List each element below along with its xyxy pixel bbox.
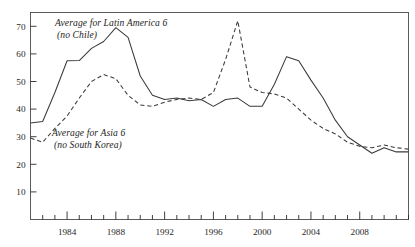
annotation-asia-line1: Average for Asia 6 — [52, 127, 125, 139]
x-tick-label: 2008 — [351, 227, 370, 237]
x-axis-tick-labels: 1984198819921996200020042008 — [58, 227, 369, 237]
x-tick-label: 1992 — [155, 227, 174, 237]
plot-frame — [31, 13, 409, 220]
y-tick-label: 20 — [16, 160, 26, 170]
y-tick-label: 70 — [16, 22, 26, 32]
annotation-asia-line2: (no South Korea) — [52, 139, 125, 151]
annotation-latin-america-line1: Average for Latin America 6 — [55, 17, 167, 29]
annotation-asia: Average for Asia 6 (no South Korea) — [52, 127, 125, 151]
x-tick-label: 1996 — [204, 227, 223, 237]
annotation-latin-america-line2: (no Chile) — [55, 29, 167, 41]
annotation-latin-america: Average for Latin America 6 (no Chile) — [55, 17, 167, 41]
y-tick-label: 40 — [16, 104, 26, 114]
y-tick-label: 60 — [16, 49, 26, 59]
x-axis-ticks — [43, 212, 409, 220]
y-axis-tick-labels: 10203040506070 — [16, 22, 26, 198]
x-tick-label: 1988 — [107, 227, 126, 237]
x-tick-label: 2004 — [302, 227, 321, 237]
y-tick-label: 10 — [16, 187, 26, 197]
y-tick-label: 30 — [16, 132, 26, 142]
x-tick-label: 2000 — [253, 227, 272, 237]
chart-figure: 10203040506070 1984198819921996200020042… — [0, 0, 415, 247]
y-tick-label: 50 — [16, 77, 26, 87]
x-tick-label: 1984 — [58, 227, 77, 237]
y-axis-ticks — [31, 26, 37, 192]
